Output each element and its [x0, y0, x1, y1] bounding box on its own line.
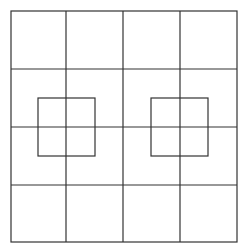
grid-lines	[11, 11, 237, 242]
grid-diagram	[0, 0, 245, 251]
